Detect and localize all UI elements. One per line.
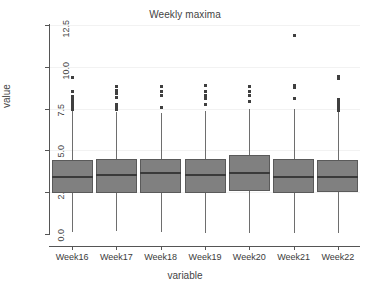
x-tick-label-week19: Week19 [183, 252, 227, 262]
outlier-point [160, 90, 163, 93]
median-line [96, 174, 137, 176]
outlier-point [248, 100, 251, 103]
whisker-lower [294, 193, 295, 233]
y-tick-label: 5.0 [56, 145, 66, 158]
outlier-point [204, 97, 207, 100]
gridline [50, 67, 360, 68]
x-tick [338, 246, 339, 250]
outlier-point [204, 103, 207, 106]
whisker-upper [72, 111, 73, 160]
outlier-point [115, 89, 118, 92]
gridline [50, 25, 360, 26]
x-tick-label-week20: Week20 [227, 252, 271, 262]
x-tick-label-week16: Week16 [50, 252, 94, 262]
outlier-point [337, 98, 340, 101]
outlier-point [204, 84, 207, 87]
outlier-point [115, 85, 118, 88]
x-tick-label-week21: Week21 [271, 252, 315, 262]
box-week18 [140, 159, 181, 193]
y-tick-label: 0.0 [56, 229, 66, 242]
outlier-point [160, 106, 163, 109]
whisker-upper [249, 109, 250, 155]
outlier-point [337, 75, 340, 78]
x-axis-label: variable [0, 270, 370, 281]
x-tick [205, 246, 206, 250]
box-week19 [185, 159, 226, 193]
whisker-lower [249, 191, 250, 232]
outlier-point [248, 85, 251, 88]
outlier-point [293, 97, 296, 100]
whisker-lower [161, 193, 162, 232]
x-tick-label-week18: Week18 [139, 252, 183, 262]
median-line [229, 172, 270, 174]
outlier-point [160, 94, 163, 97]
whisker-lower [205, 193, 206, 233]
median-line [140, 172, 181, 174]
y-tick-label: 12.5 [61, 20, 71, 38]
whisker-upper [294, 109, 295, 159]
outlier-point [160, 85, 163, 88]
x-tick-label-week17: Week17 [94, 252, 138, 262]
chart-title: Weekly maxima [0, 9, 370, 20]
median-line [52, 176, 93, 178]
boxplot-chart: Weekly maxima value variable 0.02.55.07.… [0, 0, 370, 289]
outlier-point [115, 96, 118, 99]
median-line [317, 176, 358, 178]
x-tick-label-week22: Week22 [316, 252, 360, 262]
y-axis-label: value [1, 84, 12, 108]
median-line [185, 174, 226, 176]
outlier-point [248, 90, 251, 93]
x-tick [161, 246, 162, 250]
whisker-upper [161, 113, 162, 159]
outlier-point [115, 103, 118, 106]
x-tick [294, 246, 295, 250]
gridline [50, 109, 360, 110]
outlier-point [71, 76, 74, 79]
whisker-upper [338, 112, 339, 160]
outlier-point [204, 94, 207, 97]
outlier-point [71, 90, 74, 93]
whisker-lower [72, 193, 73, 232]
whisker-upper [116, 112, 117, 159]
outlier-point [71, 95, 74, 98]
x-tick [72, 246, 73, 250]
x-tick [249, 246, 250, 250]
outlier-point [293, 34, 296, 37]
whisker-lower [116, 193, 117, 232]
median-line [273, 176, 314, 178]
y-tick-label: 10.0 [61, 62, 71, 80]
whisker-lower [338, 192, 339, 232]
outlier-point [204, 90, 207, 93]
y-axis-line [49, 24, 50, 235]
x-tick [116, 246, 117, 250]
box-week17 [96, 159, 137, 192]
y-tick-label: 7.5 [56, 104, 66, 117]
outlier-point [115, 92, 118, 95]
outlier-point [248, 94, 251, 97]
outlier-point [293, 84, 296, 87]
whisker-upper [205, 111, 206, 159]
